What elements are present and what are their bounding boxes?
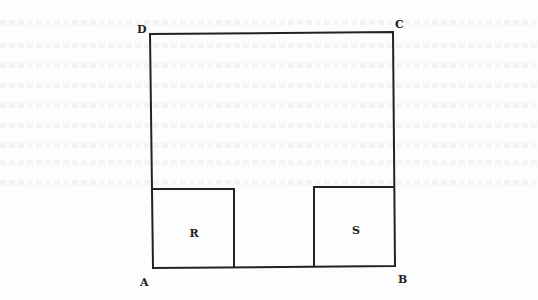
vertex-label-c: C <box>395 18 404 31</box>
vertex-label-b: B <box>398 273 407 286</box>
vertex-label-a: A <box>139 276 149 289</box>
vertex-label-d: D <box>137 23 147 36</box>
region-label-s: S <box>352 224 360 237</box>
region-label-r: R <box>189 227 199 240</box>
square-diagram: D C A B R S <box>0 0 538 300</box>
diagram-page: D C A B R S <box>0 0 538 300</box>
